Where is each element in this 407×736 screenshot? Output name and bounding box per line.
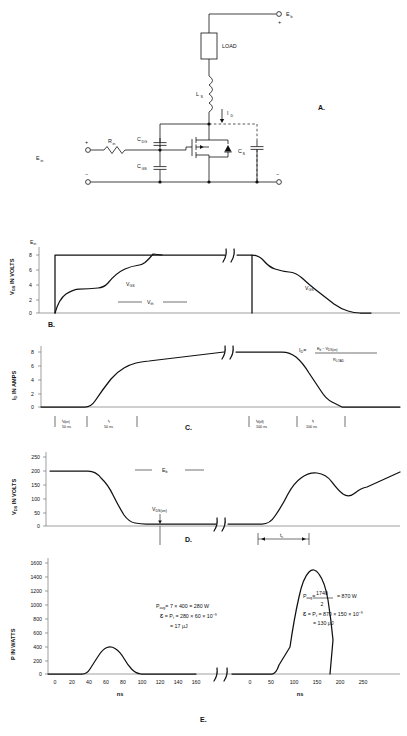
panel-d-letter: D. — [185, 536, 192, 543]
cgs-label: C — [137, 163, 141, 169]
panel-e-xticks-left: 0 20 40 60 80 100 120 140 160 — [54, 679, 201, 685]
svg-text:50: 50 — [34, 510, 40, 516]
svg-text:150: 150 — [31, 482, 40, 488]
panel-e-power: P IN WATTS 1600 1400 1200 1000 800 600 4… — [0, 550, 407, 736]
svg-text:8: 8 — [29, 252, 32, 258]
panel-c-rise-curve — [41, 352, 224, 407]
body-diode-bottom-wire — [209, 152, 228, 157]
supply-label: E — [286, 11, 290, 17]
svg-text:1740: 1740 — [316, 590, 328, 596]
svg-text:6: 6 — [31, 363, 34, 369]
cdg-label-sub: DG — [142, 140, 148, 144]
panel-c-fall-curve — [236, 352, 400, 407]
ground-node-dot-3 — [255, 180, 258, 183]
mosfet-drain-connect — [196, 134, 209, 140]
return-terminal — [277, 180, 282, 185]
panel-d-rise-curve — [228, 472, 400, 524]
svg-text:160: 160 — [192, 679, 201, 685]
cs-label: C — [238, 148, 242, 154]
svg-text:2: 2 — [31, 391, 34, 397]
input-polarity-minus: − — [85, 171, 88, 177]
svg-text:100 ns: 100 ns — [256, 425, 267, 429]
snubber-dashed-top — [209, 124, 257, 140]
panel-e-xlabel-left: ns — [117, 691, 124, 697]
panel-e-equation-left: Pavg= 7 × 400 = 280 W Ɛ = Pt = 280 × 60 … — [156, 603, 217, 629]
rin-label: R — [108, 138, 112, 144]
svg-text:250: 250 — [31, 454, 40, 460]
svg-text:td(on): td(on) — [62, 419, 70, 424]
svg-text:200: 200 — [336, 679, 345, 685]
panel-b-annot-vgs-fall: VGS — [305, 285, 314, 292]
panel-d-annot-eb: Eb — [162, 467, 167, 474]
svg-text:= 870 W: = 870 W — [337, 593, 357, 599]
body-diode-top-wire — [209, 140, 228, 144]
body-diode-triangle — [225, 145, 232, 152]
svg-text:0: 0 — [39, 671, 42, 677]
svg-text:80: 80 — [120, 679, 126, 685]
svg-text:20: 20 — [69, 679, 75, 685]
svg-text:600: 600 — [33, 630, 42, 636]
panel-d-ylabel: VDS IN VOLTS — [11, 479, 18, 515]
svg-text:0: 0 — [54, 679, 57, 685]
supply-polarity-plus: + — [278, 19, 281, 25]
svg-text:60: 60 — [103, 679, 109, 685]
panel-d-tick-marks — [43, 457, 46, 526]
svg-text:1000: 1000 — [30, 602, 42, 608]
mosfet-body-arrow — [200, 145, 204, 149]
svg-text:8: 8 — [31, 349, 34, 355]
drain-current-arrowhead — [220, 119, 224, 123]
input-polarity-plus: + — [85, 139, 88, 145]
svg-text:Ɛ = Pt = 870 × 150 × 10−9: Ɛ = Pt = 870 × 150 × 10−9 — [303, 611, 363, 618]
panel-e-equation-right: Pavg= 1740 2 = 870 W Ɛ = Pt = 870 × 150 … — [303, 590, 363, 626]
panel-e-turnon-pulse — [48, 647, 196, 674]
panel-c-tick-marks — [38, 352, 41, 407]
mosfet-source-connect — [196, 155, 209, 162]
load-resistor — [201, 33, 217, 59]
panel-b-annot-vth: Vth — [147, 299, 153, 306]
panel-b-letter: B. — [48, 321, 55, 328]
panel-e-xticks-right: 0 50 100 150 200 250 — [249, 679, 368, 685]
svg-text:Pavg=: Pavg= — [303, 593, 315, 600]
svg-text:0: 0 — [29, 310, 32, 316]
panel-e-yticks: 1600 1400 1200 1000 800 600 400 200 0 — [30, 560, 42, 678]
svg-text:4: 4 — [29, 282, 32, 288]
svg-text:200: 200 — [33, 658, 42, 664]
panel-d-vds: VDS IN VOLTS 250 200 150 100 50 0 Eb VDS… — [0, 440, 407, 550]
panel-c-equation-denominator: RLOAD — [333, 358, 345, 363]
svg-text:= 130 μJ: = 130 μJ — [313, 620, 334, 626]
panel-b-drive-edge-rise — [55, 255, 225, 313]
svg-text:td(off): td(off) — [256, 419, 264, 424]
panel-c-equation: ID= Eb − VDS(on) RLOAD — [299, 347, 377, 363]
svg-text:250: 250 — [359, 679, 368, 685]
svg-text:1200: 1200 — [30, 588, 42, 594]
inductor-label-sub: S — [201, 95, 204, 99]
panel-d-yticks: 250 200 150 100 50 0 — [31, 454, 40, 530]
panel-b-ylabel: VGS IN VOLTS — [9, 258, 16, 295]
panel-a-circuit: E b + LOAD L S I D C DG C GS — [0, 0, 407, 195]
cgs-label-sub: GS — [142, 167, 148, 171]
svg-text:120: 120 — [156, 679, 165, 685]
svg-text:800: 800 — [33, 616, 42, 622]
panel-e-ylabel: P IN WATTS — [10, 628, 16, 660]
panel-b-yticks: 8 6 4 2 0 — [29, 252, 32, 317]
svg-text:1600: 1600 — [30, 560, 42, 566]
panel-e-xlabel-right: ns — [297, 691, 304, 697]
panel-c-ylabel: ID IN AMPS — [11, 371, 18, 400]
panel-b-top-label: Ein — [30, 239, 36, 246]
svg-text:Pavg= 7 × 400 = 280 W: Pavg= 7 × 400 = 280 W — [156, 603, 209, 610]
rin-resistor — [104, 147, 130, 154]
cs-label-sub: S — [243, 152, 246, 156]
svg-text:100: 100 — [290, 679, 299, 685]
panel-e-letter: E. — [200, 716, 207, 723]
panel-d-annot-vdson: VDS(on) — [152, 506, 167, 513]
svg-text:= 17 μJ: = 17 μJ — [170, 623, 188, 629]
panel-c-letter: C. — [185, 424, 192, 431]
svg-text:4: 4 — [31, 377, 34, 383]
panel-c-equation-numerator: Eb − VDS(on) — [317, 347, 338, 352]
input-plus-terminal — [86, 148, 91, 153]
panel-b-vgs-rise-curve — [55, 254, 162, 313]
svg-text:0: 0 — [37, 523, 40, 529]
drain-current-label: I — [227, 110, 229, 116]
svg-text:50: 50 — [268, 679, 274, 685]
panel-c-id: ID IN AMPS 8 6 4 2 0 ID= Eb − VDS(on) RL… — [0, 330, 407, 440]
